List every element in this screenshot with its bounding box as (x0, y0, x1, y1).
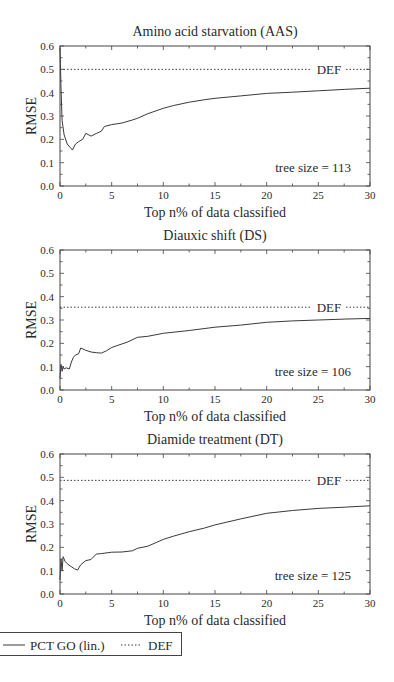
chart-panel-3: Diamide treatment (DT)0510152025300.00.1… (24, 432, 376, 628)
x-tick-label: 20 (261, 597, 273, 609)
y-tick-label: 0.0 (40, 588, 54, 600)
def-label: DEF (317, 62, 342, 77)
x-tick-label: 25 (313, 597, 325, 609)
y-tick-label: 0.1 (40, 565, 54, 577)
x-tick-label: 10 (158, 597, 170, 609)
chart-title: Amino acid starvation (AAS) (132, 24, 298, 40)
def-label: DEF (317, 300, 342, 315)
y-tick-label: 0.5 (40, 471, 54, 483)
legend: PCT GO (lin.) DEF (0, 632, 182, 656)
chart-panel-1: Amino acid starvation (AAS)0510152025300… (24, 24, 376, 220)
chart-panel-2: Diauxic shift (DS)0510152025300.00.10.20… (24, 228, 376, 424)
x-tick-label: 10 (158, 189, 170, 201)
x-axis-label: Top n% of data classified (144, 409, 286, 424)
y-tick-label: 0.4 (40, 87, 54, 99)
figure-canvas: Amino acid starvation (AAS)0510152025300… (0, 0, 394, 682)
x-tick-label: 30 (365, 393, 377, 405)
x-tick-label: 0 (57, 393, 63, 405)
y-tick-label: 0.0 (40, 384, 54, 396)
x-tick-label: 15 (210, 597, 222, 609)
y-tick-label: 0.3 (40, 518, 54, 530)
legend-label-pct-go: PCT GO (lin.) (30, 638, 105, 653)
x-tick-label: 0 (57, 189, 63, 201)
y-tick-label: 0.4 (40, 495, 54, 507)
y-tick-label: 0.1 (40, 361, 54, 373)
tree-size-annotation: tree size = 106 (275, 364, 352, 379)
tree-size-annotation: tree size = 125 (275, 568, 351, 583)
y-tick-label: 0.2 (40, 541, 54, 553)
x-tick-label: 25 (313, 189, 325, 201)
x-axis-label: Top n% of data classified (144, 205, 286, 220)
x-tick-label: 30 (365, 189, 377, 201)
x-tick-label: 15 (210, 189, 222, 201)
x-tick-label: 20 (261, 189, 273, 201)
x-tick-label: 0 (57, 597, 63, 609)
x-tick-label: 5 (109, 597, 115, 609)
x-axis-label: Top n% of data classified (144, 613, 286, 628)
chart-title: Diauxic shift (DS) (163, 228, 267, 244)
x-tick-label: 15 (210, 393, 222, 405)
y-tick-label: 0.4 (40, 291, 54, 303)
x-tick-label: 5 (109, 393, 115, 405)
y-tick-label: 0.5 (40, 267, 54, 279)
y-tick-label: 0.3 (40, 110, 54, 122)
y-tick-label: 0.1 (40, 157, 54, 169)
chart-title: Diamide treatment (DT) (147, 432, 283, 448)
x-tick-label: 30 (365, 597, 377, 609)
def-label: DEF (317, 473, 342, 488)
y-tick-label: 0.3 (40, 314, 54, 326)
x-tick-label: 10 (158, 393, 170, 405)
y-tick-label: 0.6 (40, 448, 54, 460)
x-tick-label: 5 (109, 189, 115, 201)
x-tick-label: 25 (313, 393, 325, 405)
y-axis-label: RMSE (24, 301, 39, 339)
y-tick-label: 0.6 (40, 244, 54, 256)
y-tick-label: 0.6 (40, 40, 54, 52)
y-axis-label: RMSE (24, 97, 39, 135)
y-axis-label: RMSE (24, 505, 39, 543)
legend-label-def: DEF (148, 638, 173, 653)
x-tick-label: 20 (261, 393, 273, 405)
y-tick-label: 0.2 (40, 133, 54, 145)
y-tick-label: 0.2 (40, 337, 54, 349)
y-tick-label: 0.0 (40, 180, 54, 192)
tree-size-annotation: tree size = 113 (275, 160, 351, 175)
y-tick-label: 0.5 (40, 63, 54, 75)
